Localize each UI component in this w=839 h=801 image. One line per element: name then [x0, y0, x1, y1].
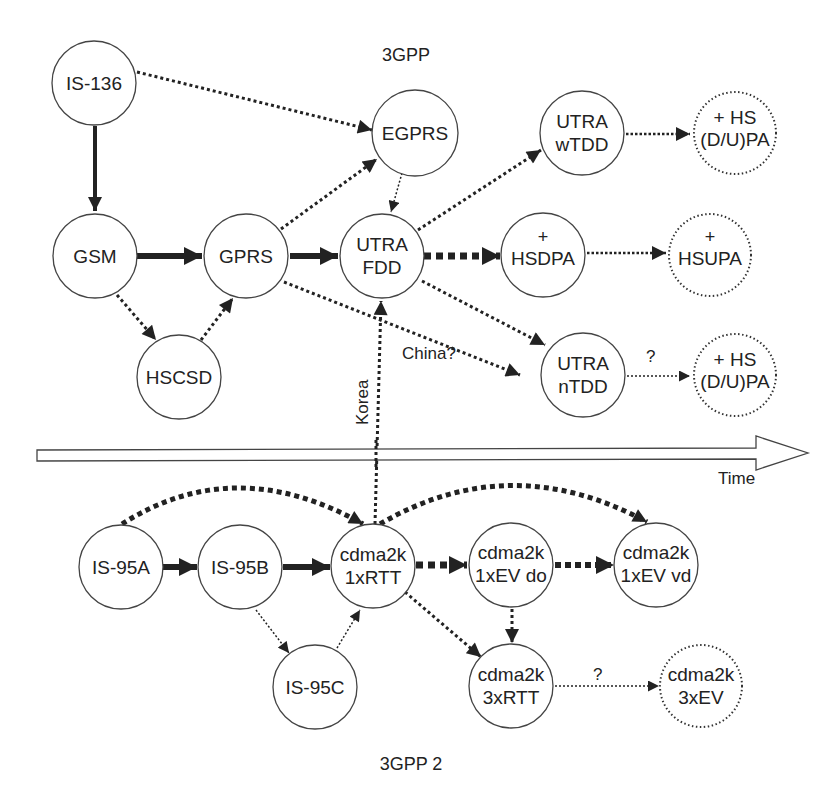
svg-text:UTRA: UTRA	[356, 234, 408, 255]
node-hs-dupa-top: + HS (D/U)PA	[694, 92, 776, 174]
edge-is95a-1xrtt	[122, 488, 363, 524]
node-utra-fdd: UTRA FDD	[340, 214, 424, 298]
node-cdma2k-3xev: cdma2k 3xEV	[660, 645, 742, 727]
svg-text:1xRTT: 1xRTT	[345, 567, 402, 588]
node-is95b: IS-95B	[198, 525, 282, 609]
node-is136: IS-136	[52, 41, 136, 125]
group-label-3gpp: 3GPP	[382, 45, 430, 65]
svg-text:1xEV do: 1xEV do	[475, 565, 547, 586]
svg-text:wTDD: wTDD	[555, 134, 609, 155]
node-hsdpa: + HSDPA	[501, 213, 585, 297]
svg-text:nTDD: nTDD	[558, 376, 608, 397]
node-hsupa: + HSUPA	[669, 214, 751, 296]
svg-text:HSCSD: HSCSD	[146, 367, 213, 388]
edge-label-ntdd-question: ?	[646, 347, 655, 366]
svg-text:+ HS: + HS	[714, 107, 757, 128]
edge-1xrtt-utrafdd	[375, 301, 381, 524]
node-cdma2k-3xrtt: cdma2k 3xRTT	[469, 644, 553, 728]
node-utra-wtdd: UTRA wTDD	[540, 91, 624, 175]
svg-text:UTRA: UTRA	[557, 353, 609, 374]
time-arrow: Time	[37, 436, 808, 488]
svg-text:1xEV vd: 1xEV vd	[621, 565, 692, 586]
edge-label-3xrtt-question: ?	[593, 665, 602, 684]
node-utra-ntdd: UTRA nTDD	[541, 333, 625, 417]
node-cdma2k-1xev-do: cdma2k 1xEV do	[469, 523, 553, 607]
svg-text:cdma2k: cdma2k	[623, 542, 690, 563]
svg-text:HSDPA: HSDPA	[511, 248, 575, 269]
svg-text:IS-95C: IS-95C	[285, 677, 344, 698]
edge-gsm-hscsd	[117, 295, 156, 340]
svg-text:+: +	[705, 227, 716, 247]
evolution-diagram: 3GPP 3GPP 2	[0, 0, 839, 801]
svg-text:IS-136: IS-136	[66, 73, 122, 94]
node-cdma2k-1xev-vd: cdma2k 1xEV vd	[614, 523, 698, 607]
edge-is136-egprs	[137, 72, 372, 130]
node-gsm: GSM	[53, 214, 137, 298]
group-label-3gpp2: 3GPP 2	[380, 754, 443, 774]
svg-text:3xEV: 3xEV	[678, 687, 724, 708]
svg-text:cdma2k: cdma2k	[478, 664, 545, 685]
svg-text:(D/U)PA: (D/U)PA	[700, 129, 770, 150]
node-cdma2k-1xrtt: cdma2k 1xRTT	[331, 524, 415, 608]
edge-hscsd-gprs	[201, 298, 233, 340]
svg-text:IS-95B: IS-95B	[211, 557, 269, 578]
node-egprs: EGPRS	[372, 90, 458, 176]
node-hscsd: HSCSD	[137, 335, 221, 419]
svg-text:cdma2k: cdma2k	[478, 542, 545, 563]
svg-text:IS-95A: IS-95A	[92, 557, 150, 578]
svg-text:cdma2k: cdma2k	[668, 664, 735, 685]
svg-text:(D/U)PA: (D/U)PA	[700, 371, 770, 392]
svg-text:EGPRS: EGPRS	[382, 123, 449, 144]
node-gprs: GPRS	[204, 214, 288, 298]
edge-is95b-is95c	[256, 610, 289, 653]
svg-text:GSM: GSM	[73, 246, 116, 267]
edge-is95c-1xrtt	[337, 610, 360, 648]
svg-text:+: +	[538, 227, 549, 247]
svg-text:UTRA: UTRA	[556, 111, 608, 132]
svg-text:GPRS: GPRS	[219, 246, 273, 267]
edge-label-korea: Korea	[353, 379, 372, 425]
svg-text:+ HS: + HS	[714, 349, 757, 370]
time-label: Time	[718, 469, 755, 488]
edge-label-china: China?	[402, 344, 456, 363]
svg-text:HSUPA: HSUPA	[678, 248, 742, 269]
node-hs-dupa-bottom: + HS (D/U)PA	[694, 334, 776, 416]
node-is95a: IS-95A	[79, 525, 163, 609]
node-is95c: IS-95C	[273, 645, 357, 729]
svg-text:cdma2k: cdma2k	[340, 544, 407, 565]
svg-text:FDD: FDD	[362, 257, 401, 278]
edge-1xrtt-1xevvd	[380, 485, 647, 524]
edge-1xrtt-3xrtt	[405, 592, 481, 657]
edge-egprs-utrafdd	[391, 173, 402, 212]
svg-text:3xRTT: 3xRTT	[483, 687, 540, 708]
